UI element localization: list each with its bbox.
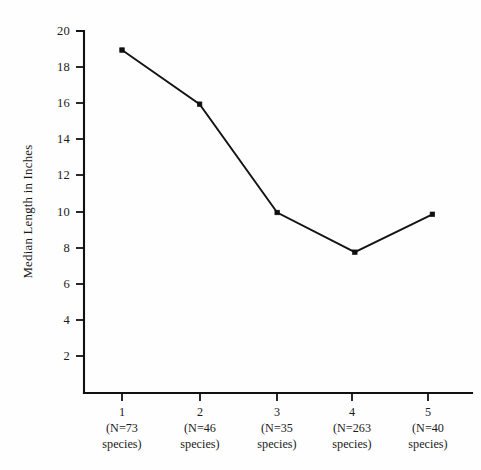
data-point-3 — [275, 210, 280, 215]
y-tick-label-4: 4 — [36, 314, 70, 327]
y-tick-label-8: 8 — [36, 242, 70, 255]
data-point-4 — [353, 250, 358, 255]
y-tick-label-20: 20 — [36, 25, 70, 38]
data-series-median-length — [120, 48, 435, 255]
y-tick-label-6: 6 — [36, 278, 70, 291]
x-axis-tick-marks — [122, 393, 428, 401]
series-markers — [120, 48, 435, 255]
y-axis-tick-marks — [76, 31, 84, 356]
series-line — [122, 50, 432, 252]
y-tick-label-10: 10 — [36, 206, 70, 219]
data-point-2 — [197, 102, 202, 107]
x-tick-species-5: species) — [382, 436, 474, 452]
x-tick-label-group-5: 5 (N=40 species) — [382, 404, 474, 452]
data-point-5 — [430, 212, 435, 217]
y-tick-label-2: 2 — [36, 350, 70, 363]
x-tick-label-5: 5 — [382, 404, 474, 420]
chart-figure: 20 18 16 14 12 10 8 6 4 2 1 (N=73 specie… — [0, 0, 481, 470]
y-tick-label-18: 18 — [36, 61, 70, 74]
data-point-1 — [120, 48, 125, 53]
x-tick-n-5: (N=40 — [382, 420, 474, 436]
chart-axes — [76, 31, 472, 393]
y-tick-label-14: 14 — [36, 133, 70, 146]
line-chart-plot — [0, 0, 481, 470]
y-tick-label-16: 16 — [36, 97, 70, 110]
y-tick-label-12: 12 — [36, 169, 70, 182]
